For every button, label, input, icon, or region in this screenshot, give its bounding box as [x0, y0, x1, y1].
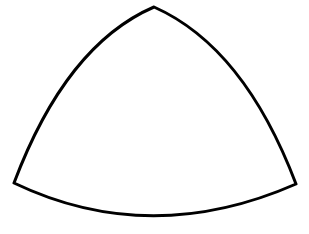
diagram-canvas — [0, 0, 309, 234]
reuleaux-triangle — [0, 0, 309, 234]
reuleaux-triangle-outline — [14, 7, 296, 216]
